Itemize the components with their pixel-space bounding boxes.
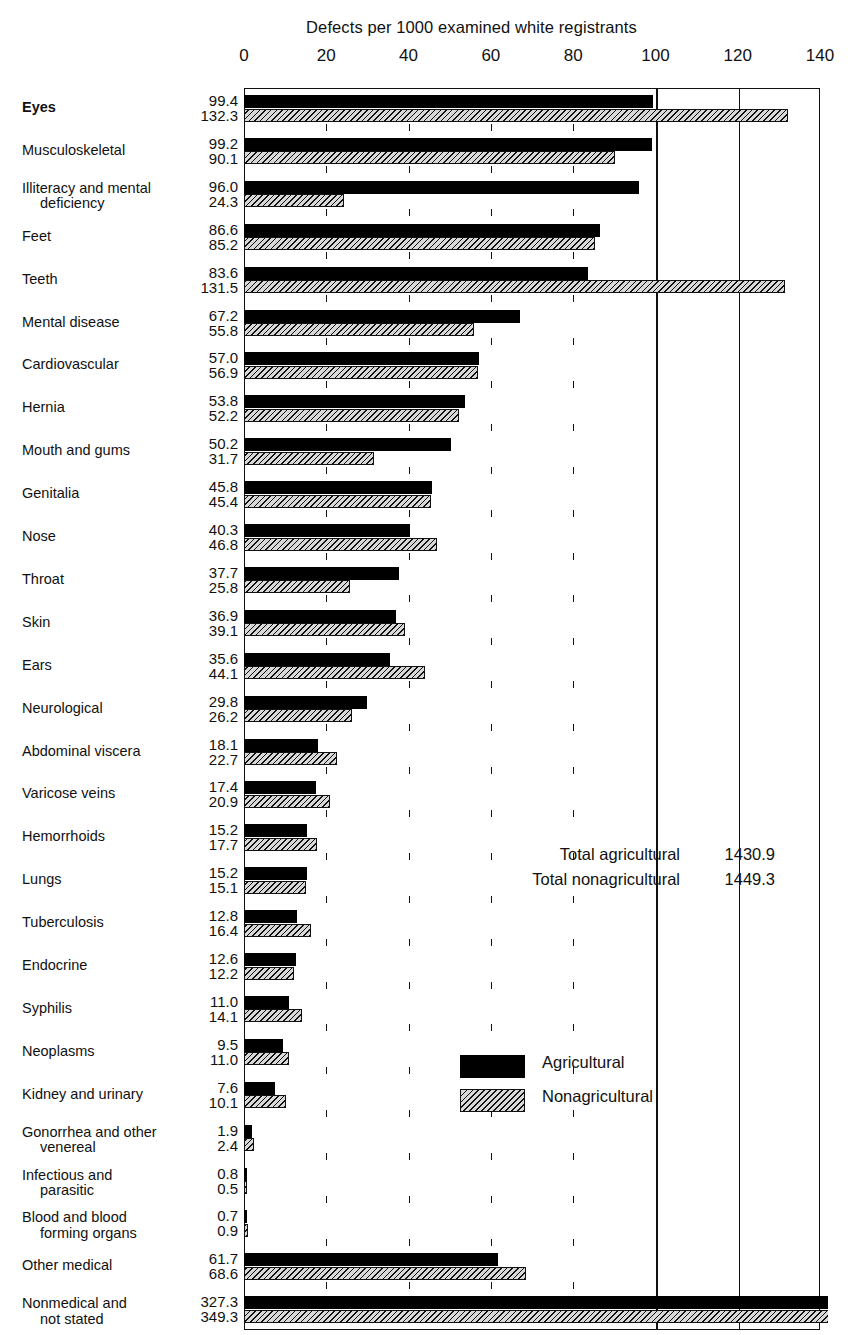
gap-tick-40 [409, 724, 410, 731]
gap-tick-20 [326, 252, 327, 259]
gap-tick-40 [409, 1282, 410, 1289]
gap-tick-40 [409, 1153, 410, 1160]
gap-tick-80 [573, 1110, 574, 1117]
value-labels: 11.014.1 [178, 994, 238, 1024]
bar-nonagricultural [244, 666, 425, 679]
value-agricultural: 99.4 [178, 93, 238, 108]
gap-tick-60 [491, 1024, 492, 1031]
bar-agricultural [244, 653, 390, 666]
gap-tick-60 [491, 124, 492, 131]
value-agricultural: 86.6 [178, 222, 238, 237]
gap-tick-40 [409, 810, 410, 817]
gap-tick-80 [573, 681, 574, 688]
gap-tick-40 [409, 381, 410, 388]
value-labels: 0.70.9 [178, 1208, 238, 1238]
value-nonagricultural: 90.1 [178, 151, 238, 166]
x-tick-140: 140 [806, 46, 834, 66]
gap-tick-40 [409, 338, 410, 345]
value-labels: 9.511.0 [178, 1037, 238, 1067]
gap-tick-80 [573, 1196, 574, 1203]
bar-agricultural [244, 1039, 283, 1052]
bar-agricultural [244, 739, 318, 752]
bar-nonagricultural [244, 280, 785, 293]
gap-tick-20 [326, 810, 327, 817]
value-nonagricultural: 132.3 [178, 108, 238, 123]
gap-tick-60 [491, 295, 492, 302]
gap-tick-80 [573, 1282, 574, 1289]
value-nonagricultural: 11.0 [178, 1052, 238, 1067]
gap-tick-20 [326, 124, 327, 131]
value-nonagricultural: 52.2 [178, 408, 238, 423]
category-label-line1: Illiteracy and mental [22, 180, 151, 196]
value-nonagricultural: 15.1 [178, 880, 238, 895]
x-tick-120: 120 [724, 46, 752, 66]
gap-tick-80 [573, 1153, 574, 1160]
value-agricultural: 17.4 [178, 779, 238, 794]
bar-nonagricultural [244, 709, 352, 722]
bar-agricultural [244, 524, 410, 537]
gap-tick-20 [326, 1110, 327, 1117]
gap-tick-20 [326, 982, 327, 989]
legend-swatch-agricultural [460, 1055, 525, 1078]
gap-tick-20 [326, 853, 327, 860]
gap-tick-20 [326, 166, 327, 173]
bar-agricultural [244, 824, 307, 837]
gap-tick-80 [573, 767, 574, 774]
value-agricultural: 40.3 [178, 522, 238, 537]
category-label-line1: Kidney and urinary [22, 1086, 143, 1102]
gap-tick-60 [491, 767, 492, 774]
gap-tick-80 [573, 595, 574, 602]
gap-tick-80 [573, 467, 574, 474]
value-nonagricultural: 349.3 [178, 1309, 238, 1324]
bar-nonagricultural [244, 1138, 254, 1151]
gap-tick-80 [573, 124, 574, 131]
bar-agricultural [244, 267, 588, 280]
value-nonagricultural: 16.4 [178, 923, 238, 938]
gap-tick-20 [326, 467, 327, 474]
x-tick-80: 80 [564, 46, 583, 66]
bar-agricultural [244, 953, 296, 966]
value-agricultural: 99.2 [178, 136, 238, 151]
legend-swatch-nonagricultural [460, 1089, 525, 1112]
gap-tick-80 [573, 424, 574, 431]
gap-tick-80 [573, 381, 574, 388]
gap-tick-40 [409, 767, 410, 774]
bar-nonagricultural [244, 151, 615, 164]
bar-nonagricultural [244, 452, 374, 465]
total-agricultural-row: Total agricultural1430.9 [455, 842, 775, 867]
gap-tick-40 [409, 553, 410, 560]
value-labels: 45.845.4 [178, 479, 238, 509]
gap-tick-40 [409, 681, 410, 688]
category-label-line1: Teeth [22, 271, 57, 287]
value-agricultural: 18.1 [178, 737, 238, 752]
value-labels: 18.122.7 [178, 737, 238, 767]
total-nonagricultural-value: 1449.3 [680, 867, 775, 892]
bar-agricultural [244, 567, 399, 580]
value-agricultural: 1.9 [178, 1123, 238, 1138]
gap-tick-80 [573, 510, 574, 517]
gap-tick-60 [491, 1153, 492, 1160]
gap-tick-80 [573, 1024, 574, 1031]
bar-agricultural [244, 610, 396, 623]
gap-tick-60 [491, 982, 492, 989]
value-agricultural: 96.0 [178, 179, 238, 194]
gap-tick-60 [491, 1196, 492, 1203]
gap-tick-40 [409, 853, 410, 860]
legend-label-agricultural: Agricultural [542, 1053, 625, 1072]
bar-agricultural [244, 352, 479, 365]
bar-chart: Defects per 1000 examined white registra… [0, 0, 853, 1335]
gap-tick-20 [326, 1196, 327, 1203]
gap-tick-20 [326, 681, 327, 688]
gap-tick-40 [409, 638, 410, 645]
value-agricultural: 50.2 [178, 436, 238, 451]
value-nonagricultural: 0.5 [178, 1181, 238, 1196]
value-labels: 7.610.1 [178, 1080, 238, 1110]
category-label-line1: Ears [22, 657, 52, 673]
bar-agricultural [244, 696, 367, 709]
bar-nonagricultural [244, 1310, 828, 1323]
bar-nonagricultural [244, 795, 330, 808]
gap-tick-20 [326, 724, 327, 731]
value-nonagricultural: 2.4 [178, 1138, 238, 1153]
bar-nonagricultural [244, 409, 459, 422]
gap-tick-40 [409, 595, 410, 602]
